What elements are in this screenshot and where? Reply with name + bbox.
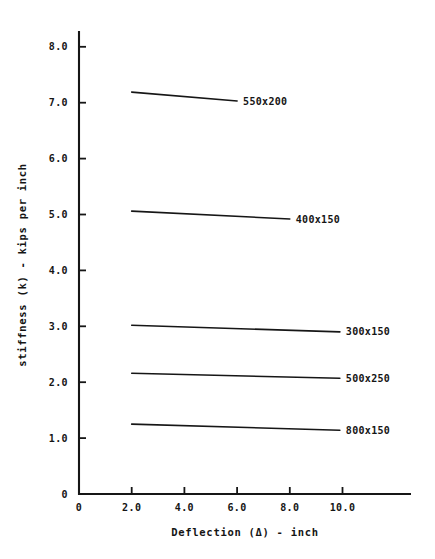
x-axis-ticks: 02.04.06.08.010.0: [76, 487, 356, 513]
y-tick-label-6.0: 6.0: [49, 153, 68, 164]
y-tick-label-1.0: 1.0: [49, 433, 68, 444]
stiffness-deflection-chart: 01.02.03.04.05.06.07.08.0 02.04.06.08.01…: [0, 0, 435, 559]
series-line-800x150: [132, 424, 340, 430]
x-tick-label-0: 0: [76, 502, 82, 513]
y-tick-label-3.0: 3.0: [49, 321, 68, 332]
y-tick-label-5.0: 5.0: [49, 209, 68, 220]
y-tick-label-2.0: 2.0: [49, 377, 68, 388]
series-label-800x150: 800x150: [346, 425, 390, 436]
series-label-300x150: 300x150: [346, 326, 390, 337]
chart-page: 01.02.03.04.05.06.07.08.0 02.04.06.08.01…: [0, 0, 435, 559]
series-label-400x150: 400x150: [296, 214, 340, 225]
x-axis-title: Deflection (Δ) - inch: [171, 526, 318, 538]
y-tick-label-7.0: 7.0: [49, 97, 68, 108]
y-tick-label-0: 0: [62, 489, 68, 500]
x-tick-label-6.0: 6.0: [227, 502, 246, 513]
series-label-500x250: 500x250: [346, 373, 390, 384]
series-line-500x250: [132, 373, 340, 378]
x-tick-label-8.0: 8.0: [280, 502, 299, 513]
series-line-400x150: [132, 211, 290, 219]
series-group: 550x200400x150300x150500x250800x150: [132, 92, 390, 436]
y-axis-title: stiffness (k) - kips per inch: [16, 163, 28, 367]
x-tick-label-4.0: 4.0: [175, 502, 194, 513]
series-label-550x200: 550x200: [243, 96, 287, 107]
series-line-550x200: [132, 92, 237, 101]
y-tick-label-8.0: 8.0: [49, 41, 68, 52]
series-line-300x150: [132, 325, 340, 332]
y-axis-ticks: 01.02.03.04.05.06.07.08.0: [49, 41, 86, 499]
y-tick-label-4.0: 4.0: [49, 265, 68, 276]
x-tick-label-2.0: 2.0: [122, 502, 141, 513]
x-tick-label-10.0: 10.0: [330, 502, 356, 513]
